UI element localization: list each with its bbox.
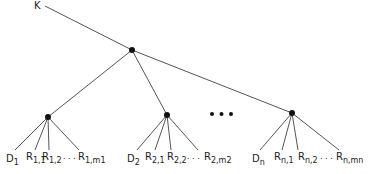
ellipsis-dot: [229, 112, 233, 116]
node-1: [45, 114, 51, 120]
leaf-ellipsis: . . .: [187, 152, 200, 162]
node-n: [289, 110, 295, 116]
leaf-label: D1: [6, 154, 19, 164]
edge-root-node-2: [132, 50, 167, 115]
ellipsis-dot: [210, 112, 214, 116]
leaf-ellipsis: . . .: [320, 152, 333, 162]
leaf-label: D2: [127, 154, 140, 164]
leaf-ellipsis: . . .: [63, 152, 76, 162]
leaf-label: R2,2: [167, 152, 187, 162]
edge-root-node-n: [132, 50, 292, 113]
root-node: [129, 47, 135, 53]
edge-k-root: [45, 6, 132, 50]
tree-edges: [0, 0, 368, 174]
leaf-label: Dn: [252, 154, 265, 164]
leaf-label: R2,m2: [204, 152, 231, 162]
ellipsis-dot: [220, 112, 224, 116]
tree-diagram: K D1 R1,1 R1,2 . . . R1,m1 D2 R2,1 R2,2 …: [0, 0, 368, 174]
root-label: K: [34, 1, 41, 11]
leaf-label: R2,1: [145, 152, 165, 162]
node-2: [164, 112, 170, 118]
leaf-label: R1,m1: [78, 152, 105, 162]
leaf-label: Rn,2: [298, 152, 318, 162]
leaf-label: Rn,1: [274, 152, 294, 162]
leaf-label: R1,2: [42, 152, 62, 162]
leaf-label: Rn,mn: [336, 152, 363, 162]
edge-root-node-1: [48, 50, 132, 117]
